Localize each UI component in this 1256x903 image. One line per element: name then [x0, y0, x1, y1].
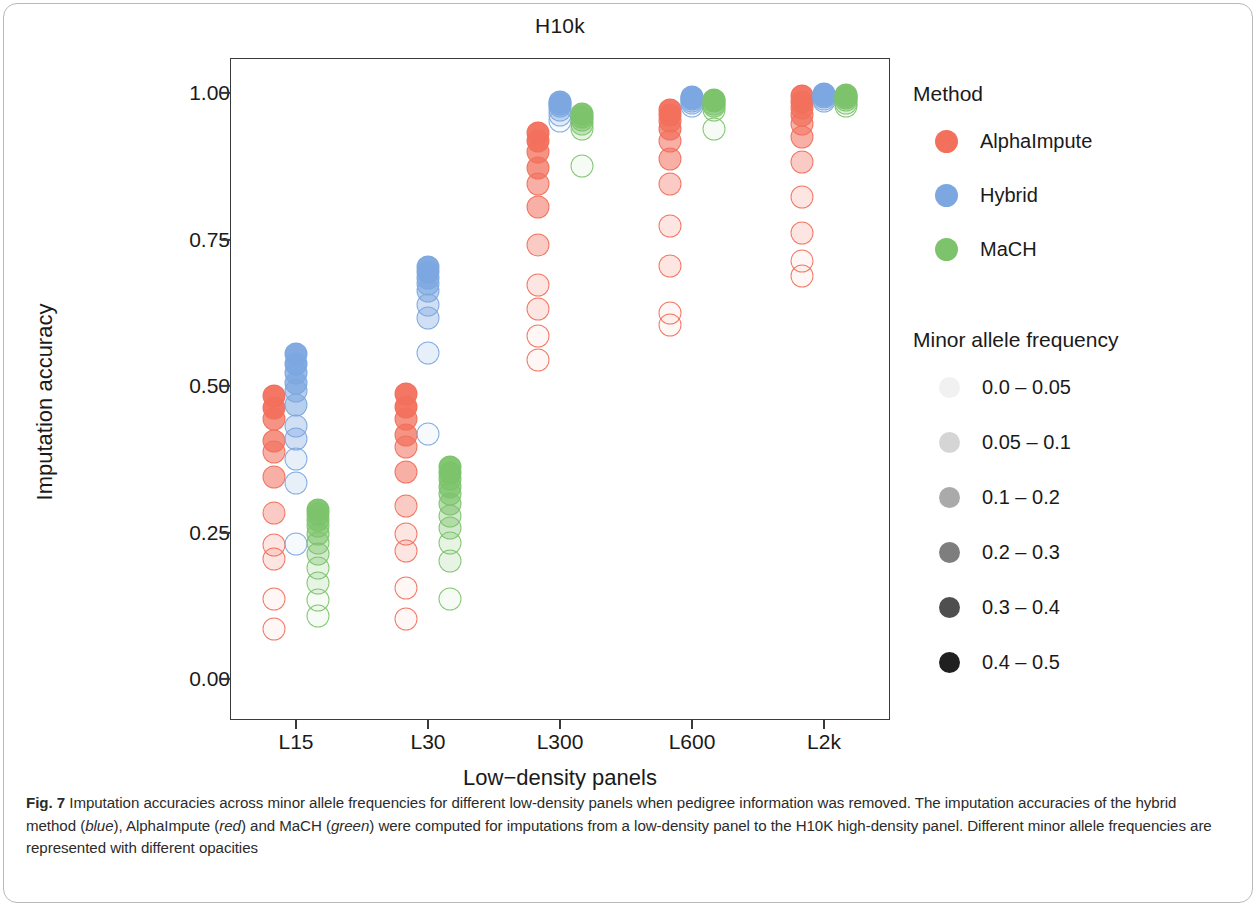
legend-maf-label: 0.3 – 0.4 — [982, 596, 1060, 619]
data-point — [571, 155, 594, 178]
legend-maf-title: Minor allele frequency — [913, 328, 1118, 352]
caption-text: ) and MaCH ( — [241, 817, 331, 834]
legend-method-label: MaCH — [980, 238, 1037, 261]
x-tick-label-l300: L300 — [500, 730, 620, 754]
data-point — [527, 325, 550, 348]
legend-maf-item[interactable]: 0.2 – 0.3 — [905, 525, 1118, 580]
legend-method-label: Hybrid — [980, 184, 1038, 207]
data-point — [417, 256, 440, 279]
legend-opacity-swatch-icon — [939, 542, 960, 563]
data-point — [659, 254, 682, 277]
y-axis-tick-labels: 0.000.250.500.751.00 — [130, 0, 230, 790]
legend-opacity-swatch-icon — [939, 377, 960, 398]
legend-maf-item[interactable]: 0.0 – 0.05 — [905, 360, 1118, 415]
data-point — [659, 98, 682, 121]
x-tick-label-l600: L600 — [632, 730, 752, 754]
y-tick-mark — [221, 92, 230, 94]
data-point — [395, 460, 418, 483]
data-point — [285, 471, 308, 494]
data-point — [527, 348, 550, 371]
data-point — [571, 102, 594, 125]
data-point — [659, 215, 682, 238]
data-point — [285, 533, 308, 556]
data-point — [395, 577, 418, 600]
caption-emphasis: green — [331, 817, 369, 834]
legend-method-label: AlphaImpute — [980, 130, 1092, 153]
data-point — [791, 221, 814, 244]
data-point — [659, 172, 682, 195]
legend-maf-label: 0.1 – 0.2 — [982, 486, 1060, 509]
legend-color-swatch-icon — [935, 238, 958, 261]
legend-opacity-swatch-icon — [939, 432, 960, 453]
legend-method-group: Method AlphaImputeHybridMaCH — [905, 82, 1092, 276]
data-point — [263, 534, 286, 557]
data-point — [285, 414, 308, 437]
legend-maf-item[interactable]: 0.3 – 0.4 — [905, 580, 1118, 635]
caption-emphasis: red — [219, 817, 241, 834]
legend-maf-label: 0.0 – 0.05 — [982, 376, 1071, 399]
data-point — [285, 448, 308, 471]
legend-maf-label: 0.2 – 0.3 — [982, 541, 1060, 564]
legend-maf-group: Minor allele frequency 0.0 – 0.050.05 – … — [905, 328, 1118, 690]
data-point — [527, 121, 550, 144]
caption-emphasis: blue — [85, 817, 113, 834]
data-point — [395, 382, 418, 405]
legend-maf-item[interactable]: 0.4 – 0.5 — [905, 635, 1118, 690]
legend-method-item-mach[interactable]: MaCH — [905, 222, 1092, 276]
data-point — [813, 82, 836, 105]
x-tick-label-l15: L15 — [236, 730, 356, 754]
y-tick-mark — [221, 385, 230, 387]
legend-panel: Method AlphaImputeHybridMaCH Minor allel… — [905, 60, 1250, 700]
data-point — [703, 88, 726, 111]
y-tick-label: 1.00 — [150, 81, 230, 105]
caption-text: ), AlphaImpute ( — [114, 817, 220, 834]
data-point — [263, 430, 286, 453]
data-point — [439, 587, 462, 610]
y-tick-label: 0.50 — [150, 374, 230, 398]
x-tick-mark — [427, 720, 429, 729]
legend-maf-label: 0.05 – 0.1 — [982, 431, 1071, 454]
figure-caption: Fig. 7 Imputation accuracies across mino… — [26, 792, 1230, 860]
data-point — [681, 85, 704, 108]
legend-method-item-alphaimpute[interactable]: AlphaImpute — [905, 114, 1092, 168]
data-point — [263, 385, 286, 408]
data-point — [263, 587, 286, 610]
data-point — [527, 274, 550, 297]
data-point — [791, 151, 814, 174]
x-tick-mark — [295, 720, 297, 729]
data-point — [263, 465, 286, 488]
data-point — [791, 85, 814, 108]
legend-color-swatch-icon — [935, 130, 958, 153]
legend-method-title: Method — [913, 82, 1092, 106]
y-axis-title: Imputation accuracy — [32, 152, 58, 652]
y-tick-mark — [221, 678, 230, 680]
y-tick-label: 0.25 — [150, 521, 230, 545]
y-tick-mark — [221, 531, 230, 533]
data-point — [263, 618, 286, 641]
legend-opacity-swatch-icon — [939, 652, 960, 673]
data-point — [703, 118, 726, 141]
caption-figure-number: Fig. 7 — [26, 794, 65, 811]
y-tick-mark — [221, 239, 230, 241]
data-point — [659, 301, 682, 324]
data-point — [395, 494, 418, 517]
x-tick-mark — [823, 720, 825, 729]
legend-method-item-hybrid[interactable]: Hybrid — [905, 168, 1092, 222]
legend-maf-item[interactable]: 0.05 – 0.1 — [905, 415, 1118, 470]
x-axis-title: Low−density panels — [230, 765, 890, 791]
data-point — [285, 342, 308, 365]
x-tick-mark — [559, 720, 561, 729]
chart-title: H10k — [230, 14, 890, 38]
y-tick-label: 0.00 — [150, 667, 230, 691]
legend-opacity-swatch-icon — [939, 597, 960, 618]
legend-maf-label: 0.4 – 0.5 — [982, 651, 1060, 674]
y-tick-label: 0.75 — [150, 228, 230, 252]
data-point — [835, 84, 858, 107]
data-point — [527, 297, 550, 320]
data-point — [791, 186, 814, 209]
data-point — [527, 196, 550, 219]
legend-maf-item[interactable]: 0.1 – 0.2 — [905, 470, 1118, 525]
data-point — [549, 90, 572, 113]
data-point — [527, 234, 550, 257]
